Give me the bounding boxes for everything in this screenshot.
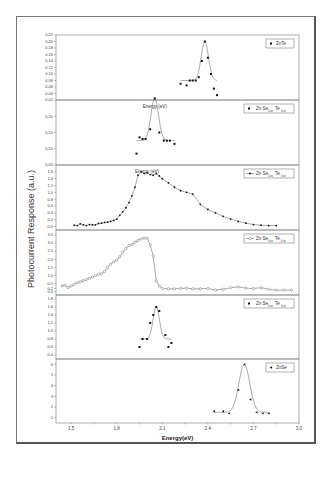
y-tick-label: 3 (51, 394, 54, 399)
data-point (275, 289, 277, 291)
data-point (73, 283, 75, 285)
panel-6: 123456ZnSe (51, 359, 299, 423)
y-tick-label: 4 (51, 383, 54, 388)
data-point (267, 288, 269, 290)
svg-text:0.xx: 0.xx (281, 174, 286, 178)
data-point (140, 238, 142, 240)
data-point (173, 143, 175, 145)
y-tick-label: 0.6 (47, 203, 53, 208)
data-point (89, 224, 91, 226)
y-tick-label: 1 (51, 415, 54, 420)
y-tick-label: 0.22 (45, 32, 54, 37)
data-point (146, 338, 148, 340)
svg-text:Te: Te (275, 171, 280, 176)
data-point (152, 314, 154, 316)
legend-label: ZnSe (276, 365, 287, 370)
panel-1: 0.020.040.060.080.100.120.140.160.180.20… (45, 32, 299, 102)
data-point (119, 256, 121, 258)
fit-curve (214, 364, 269, 412)
x-tick-label: 1.8 (114, 426, 121, 431)
data-point (245, 222, 247, 224)
legend-label: Zn Se (256, 171, 269, 176)
data-point (131, 195, 133, 197)
data-point (261, 412, 263, 414)
legend: Zn Se0.xxTe0.xx (244, 299, 294, 308)
data-point (158, 175, 160, 177)
data-point (76, 225, 78, 227)
data-point (166, 140, 168, 142)
panel-5: 0.40.60.81.01.21.41.61.8Zn Se0.xxTe0.xx (47, 295, 299, 359)
legend-marker-icon (249, 237, 251, 239)
data-point (237, 221, 239, 223)
data-point (149, 128, 151, 130)
legend: ZnSe (266, 363, 294, 372)
data-point (158, 285, 160, 287)
data-point (169, 140, 171, 142)
data-point (85, 278, 87, 280)
legend-marker-icon (249, 173, 251, 175)
data-point (79, 223, 81, 225)
y-tick-label: 1.0 (47, 273, 53, 278)
data-point (100, 272, 102, 274)
data-point (61, 285, 63, 287)
x-axis-label: Energy(eV) (162, 435, 194, 441)
data-point (125, 207, 127, 209)
data-point (249, 398, 251, 400)
y-tick-label: 0.5 (47, 281, 53, 286)
legend: Zn Se0.xxTe0.xx (244, 104, 294, 113)
data-point (207, 57, 209, 59)
data-point (137, 239, 139, 241)
data-point (152, 174, 154, 176)
y-axis-label: Photocurrent Response (a.u.) (26, 170, 36, 288)
data-point (237, 286, 239, 288)
data-point (73, 224, 75, 226)
stacked-photocurrent-chart: 0.020.040.060.080.100.120.140.160.180.20… (0, 0, 329, 481)
y-tick-label: 0.10 (45, 146, 54, 151)
data-point (185, 287, 187, 289)
data-point (213, 410, 215, 412)
svg-text:Te: Te (275, 236, 280, 241)
y-tick-label: 3.0 (47, 240, 53, 245)
data-point (158, 310, 160, 312)
data-point (230, 218, 232, 220)
legend-label: Zn Se (256, 106, 269, 111)
y-tick-label: 1.0 (47, 328, 53, 333)
data-point (186, 191, 188, 193)
data-point (116, 259, 118, 261)
svg-text:0.xx: 0.xx (281, 239, 286, 243)
data-point (207, 287, 209, 289)
x-axis: 1.51.82.12.42.73.0 (68, 423, 303, 431)
x-tick-label: 2.4 (205, 426, 212, 431)
data-point (158, 132, 160, 134)
y-tick-label: 2.5 (47, 248, 53, 253)
svg-text:0.xx: 0.xx (281, 109, 286, 113)
legend-marker-icon (270, 43, 272, 45)
data-point (290, 289, 292, 291)
data-point (122, 211, 124, 213)
svg-text:Te: Te (275, 301, 280, 306)
series-line (74, 172, 276, 226)
data-point (228, 412, 230, 414)
data-point (109, 263, 111, 265)
data-point (88, 277, 90, 279)
data-point (207, 209, 209, 211)
y-tick-label: 0.02 (45, 97, 54, 102)
data-point (85, 225, 87, 227)
y-tick-label: 0.20 (45, 39, 54, 44)
data-point (173, 288, 175, 290)
series-line (62, 238, 291, 290)
data-point (192, 193, 194, 195)
data-point (260, 286, 262, 288)
data-point (125, 247, 127, 249)
panel-2: 0.050.100.150.20Zn Se0.xxTe0.xxEnergy (e… (45, 97, 299, 167)
data-point (167, 182, 169, 184)
data-point (192, 80, 194, 82)
data-point (167, 288, 169, 290)
y-tick-label: 0.20 (45, 114, 54, 119)
y-tick-label: 1.4 (47, 176, 53, 181)
data-point (260, 224, 262, 226)
legend: Zn Se0.xxTe0.xx (244, 234, 294, 243)
data-point (149, 243, 151, 245)
data-point (180, 190, 182, 192)
y-tick-label: 0.8 (47, 197, 53, 202)
